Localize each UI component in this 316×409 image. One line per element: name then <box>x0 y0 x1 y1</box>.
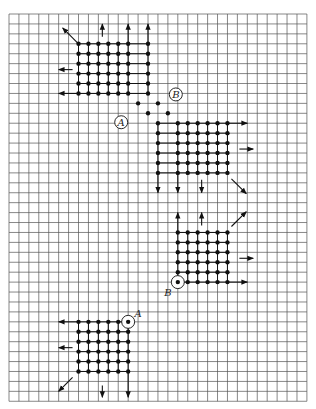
mid-right-cluster-dot <box>225 151 229 155</box>
lower-right-cluster-dot <box>176 240 180 244</box>
lower-right-cluster-dot <box>186 250 190 254</box>
mid-right-cluster-dot <box>225 171 229 175</box>
top-left-cluster-dot <box>146 61 150 65</box>
top-left-cluster-dot <box>126 71 130 75</box>
mid-right-cluster-dot <box>186 151 190 155</box>
lower-right-cluster-dot <box>225 250 229 254</box>
top-left-cluster-dot <box>106 71 110 75</box>
top-left-cluster-dot <box>96 42 100 46</box>
lower-left-cluster-dot <box>96 339 100 343</box>
mid-right-cluster-dot <box>205 131 209 135</box>
mid-right-cluster-dot <box>215 131 219 135</box>
lower-right-cluster-dot <box>186 230 190 234</box>
top-left-cluster-dot <box>146 71 150 75</box>
connector-path-dot <box>136 101 140 105</box>
lower-left-cluster-dot <box>116 320 120 324</box>
mid-right-cluster-dot <box>215 141 219 145</box>
lower-left-cluster-arrow-southwest <box>59 377 73 391</box>
lower-left-cluster-dot <box>126 330 130 334</box>
marker-a-lower-dot <box>126 320 130 324</box>
top-left-cluster-dot <box>126 42 130 46</box>
lower-left-cluster-dot <box>106 330 110 334</box>
top-left-cluster-dot <box>106 52 110 56</box>
lower-left-cluster-dot <box>96 349 100 353</box>
lower-left-cluster-dot <box>106 349 110 353</box>
lower-left-cluster-dot <box>76 339 80 343</box>
mid-right-cluster-dot <box>176 151 180 155</box>
lower-right-cluster-dot <box>176 230 180 234</box>
lower-right-cluster-dot <box>195 250 199 254</box>
mid-right-cluster-dot <box>176 141 180 145</box>
lower-left-cluster-dot <box>86 339 90 343</box>
top-left-cluster-dot <box>96 81 100 85</box>
marker-a-lower: A <box>122 308 142 328</box>
lower-left-cluster-dot <box>116 339 120 343</box>
mid-right-cluster-dot <box>225 131 229 135</box>
mid-right-cluster-dot <box>225 161 229 165</box>
lower-left-cluster-dot <box>116 369 120 373</box>
mid-right-cluster-dot <box>176 121 180 125</box>
lattice-diagram: ABBA <box>0 0 316 409</box>
lower-right-cluster-dot <box>215 230 219 234</box>
mid-right-cluster-dot <box>195 151 199 155</box>
top-left-cluster-dot <box>116 91 120 95</box>
mid-right-cluster-dot <box>215 161 219 165</box>
marker-b-upper-label: B <box>171 89 179 100</box>
top-left-cluster-dot <box>116 71 120 75</box>
marker-a-lower-label: A <box>133 308 141 319</box>
top-left-cluster-dot <box>126 81 130 85</box>
top-left-cluster-dot <box>146 42 150 46</box>
top-left-cluster-dot <box>106 61 110 65</box>
lower-left-cluster-dot <box>86 359 90 363</box>
mid-right-cluster-dot <box>195 141 199 145</box>
lower-right-cluster-dot <box>215 250 219 254</box>
lower-left-cluster-dot <box>116 359 120 363</box>
lower-right-cluster-dot <box>195 260 199 264</box>
top-left-cluster-dot <box>96 61 100 65</box>
top-left-cluster-dot <box>76 91 80 95</box>
lower-right-cluster-dot <box>195 270 199 274</box>
top-left-cluster-dot <box>76 71 80 75</box>
mid-right-cluster-dot <box>186 171 190 175</box>
mid-right-cluster-dot <box>205 171 209 175</box>
lower-left-cluster-dot <box>96 359 100 363</box>
lower-left-cluster-dot <box>86 349 90 353</box>
top-left-cluster-dot <box>126 61 130 65</box>
mid-right-cluster-dot <box>215 121 219 125</box>
lower-right-cluster-dot <box>176 270 180 274</box>
lower-right-cluster-arrow-northeast <box>231 212 246 227</box>
lower-right-cluster-dot <box>205 240 209 244</box>
mid-right-cluster-dot <box>205 141 209 145</box>
mid-right-cluster-dot <box>205 121 209 125</box>
mid-right-cluster-dot <box>176 131 180 135</box>
top-left-cluster-arrow-northwest <box>63 28 79 44</box>
lower-left-cluster-dot <box>126 339 130 343</box>
top-left-cluster-dot <box>126 52 130 56</box>
lower-right-cluster-dot <box>205 280 209 284</box>
lower-left-cluster-dot <box>106 339 110 343</box>
top-left-cluster-dot <box>86 42 90 46</box>
mid-right-cluster-dot <box>156 151 160 155</box>
mid-right-cluster-dot <box>205 151 209 155</box>
lower-left-cluster-dot <box>76 349 80 353</box>
lower-right-cluster-dot <box>225 260 229 264</box>
lower-left-cluster-dot <box>76 320 80 324</box>
top-left-cluster-dot <box>146 52 150 56</box>
lower-right-cluster-dot <box>215 260 219 264</box>
mid-right-cluster-dot <box>225 121 229 125</box>
lower-right-cluster-dot <box>186 260 190 264</box>
lower-left-cluster-dot <box>96 330 100 334</box>
lower-right-cluster-dot <box>195 240 199 244</box>
lattice-dots <box>76 42 229 374</box>
lower-right-cluster-dot <box>215 240 219 244</box>
grid-lines <box>9 14 307 401</box>
mid-right-cluster-dot <box>156 121 160 125</box>
mid-right-cluster-dot <box>195 161 199 165</box>
mid-right-cluster-dot <box>205 161 209 165</box>
connector-path-dot <box>146 111 150 115</box>
top-left-cluster-dot <box>116 61 120 65</box>
lower-left-cluster-dot <box>86 320 90 324</box>
lower-left-cluster-dot <box>116 349 120 353</box>
marker-a-upper-label: A <box>117 117 125 128</box>
top-left-cluster-dot <box>106 81 110 85</box>
